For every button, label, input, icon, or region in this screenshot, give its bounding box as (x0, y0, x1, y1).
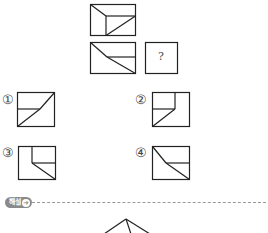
explanation-label: 해설 (9, 197, 21, 208)
option-1-number[interactable]: ① (2, 93, 14, 106)
option-3-number[interactable]: ③ (2, 146, 14, 159)
option-1-figure[interactable] (17, 92, 56, 128)
option-4-figure[interactable] (152, 146, 191, 181)
problem-figure-top (90, 4, 137, 36)
problem-figure-middle (90, 42, 137, 75)
explanation-figure (100, 216, 160, 233)
dashed-divider (32, 202, 266, 203)
option-4-number[interactable]: ④ (135, 146, 147, 159)
question-mark: ? (158, 50, 164, 63)
circle-arrow-icon: ➜ (22, 199, 30, 207)
option-3-figure[interactable] (18, 146, 57, 181)
option-2-figure[interactable] (152, 92, 191, 128)
explanation-badge: 해설 ➜ (5, 197, 32, 208)
option-2-number[interactable]: ② (135, 93, 147, 106)
